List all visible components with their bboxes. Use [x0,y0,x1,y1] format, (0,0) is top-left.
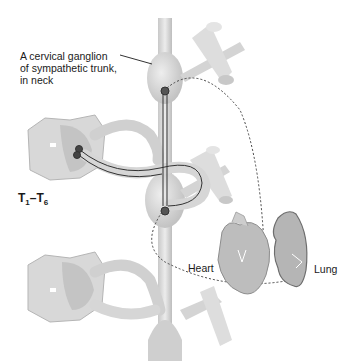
upper-vessel [180,22,245,85]
label-line-1: A cervical ganglion [20,50,160,62]
heart-illustration [218,212,270,294]
label-line-2: of sympathetic trunk, [20,62,160,74]
segment-label: T1–T6 [18,192,48,209]
spinal-cord-lower [28,252,160,322]
lung-illustration [273,212,306,287]
heart-label: Heart [188,262,214,274]
segment-prefix-2: T [36,191,43,205]
lower-vessel [180,286,232,346]
segment-end: 6 [44,198,48,207]
lung-label: Lung [314,263,337,275]
sympathetic-diagram: A cervical ganglion of sympathetic trunk… [0,0,354,361]
cervical-ganglion-label: A cervical ganglion of sympathetic trunk… [20,50,160,86]
label-line-3: in neck [20,74,160,86]
